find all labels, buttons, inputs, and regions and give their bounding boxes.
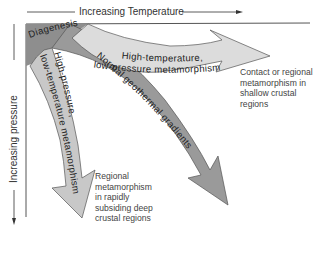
- regional-metamorphism-note: Regional metamorphism in rapidly subsidi…: [95, 171, 153, 224]
- note-line: Regional: [95, 171, 153, 182]
- contact-metamorphism-note: Contact or regional metamorphism in shal…: [240, 67, 313, 109]
- note-line: shallow crustal: [240, 88, 313, 99]
- arrowhead-right-icon: [236, 10, 243, 14]
- note-line: metamorphism in: [240, 78, 313, 89]
- note-line: regions: [240, 99, 313, 110]
- pressure-axis-label: Increasing pressure: [8, 95, 19, 183]
- note-line: Contact or regional: [240, 67, 313, 78]
- note-line: subsiding deep: [95, 203, 153, 214]
- metamorphism-diagram: Increasing Temperature Increasing pressu…: [0, 0, 325, 256]
- note-line: crustal regions: [95, 213, 153, 224]
- note-line: in rapidly: [95, 192, 153, 203]
- arrowhead-down-icon: [12, 218, 16, 225]
- temperature-axis-label: Increasing Temperature: [79, 6, 184, 17]
- note-line: metamorphism: [95, 182, 153, 193]
- pressure-axis: Increasing pressure: [8, 24, 26, 225]
